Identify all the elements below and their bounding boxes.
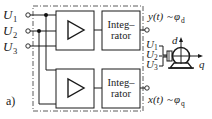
figure-label: a) bbox=[6, 94, 15, 108]
output-x-phi: φ bbox=[174, 93, 180, 105]
terminal-u2 bbox=[26, 29, 30, 33]
d-axis-label: d bbox=[172, 34, 178, 46]
motor-u1-subscript: 1 bbox=[154, 43, 158, 52]
integrator-2-line2: rator bbox=[111, 88, 131, 99]
integrator-2-line1: Integ– bbox=[108, 77, 136, 88]
junction-dot-u2 bbox=[37, 29, 41, 33]
motor-u2-subscript: 2 bbox=[154, 53, 158, 62]
motor-wire-u3 bbox=[159, 57, 167, 66]
amplifier-block-1 bbox=[56, 11, 94, 50]
terminal-u3 bbox=[26, 44, 30, 48]
integrator-1-line1: Integ– bbox=[108, 19, 136, 30]
output-x-sep: ~ bbox=[167, 93, 173, 105]
input-u2-subscript: 2 bbox=[13, 30, 17, 40]
input-u3-subscript: 3 bbox=[13, 46, 17, 56]
wire-u1-branch bbox=[46, 15, 56, 70]
output-terminal-x bbox=[145, 86, 149, 90]
output-y-sep: ~ bbox=[167, 10, 173, 22]
q-axis-label: q bbox=[199, 58, 205, 70]
input-u2: U 2 bbox=[3, 23, 17, 40]
output-terminal-y bbox=[145, 28, 149, 32]
integrator-1-line2: rator bbox=[111, 30, 131, 41]
d-axis-arrow-icon bbox=[179, 37, 183, 42]
input-u3: U 3 bbox=[3, 39, 17, 56]
motor-wire-u1 bbox=[159, 46, 167, 55]
terminal-u1 bbox=[26, 13, 30, 17]
input-u1: U 1 bbox=[3, 7, 17, 24]
flux-estimator-diagram: U 1 U 2 U 3 Integ– rator y(t) ~ φ d Inte… bbox=[0, 0, 212, 119]
motor-u3-subscript: 3 bbox=[154, 63, 158, 72]
amplifier-block-2 bbox=[56, 69, 94, 108]
output-y-phi-sub: d bbox=[181, 16, 185, 25]
output-x-phi-sub: q bbox=[181, 99, 185, 108]
input-u1-subscript: 1 bbox=[13, 14, 17, 24]
output-y-signal: y(t) bbox=[147, 10, 164, 23]
wire-u2-branch bbox=[39, 31, 56, 104]
output-x-signal: x(t) bbox=[147, 93, 164, 106]
output-y-phi: φ bbox=[174, 10, 180, 22]
output-label-y: y(t) ~ φ d bbox=[147, 10, 185, 25]
junction-dot-u1 bbox=[44, 13, 48, 17]
output-label-x: x(t) ~ φ q bbox=[147, 93, 185, 108]
